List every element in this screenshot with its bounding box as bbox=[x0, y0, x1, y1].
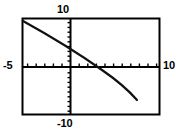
axis-label-bottom: -10 bbox=[57, 118, 72, 129]
axis-label-right: 10 bbox=[163, 60, 175, 71]
plot-area bbox=[0, 0, 179, 135]
axis-label-top: 10 bbox=[57, 4, 69, 15]
axis-label-left: -5 bbox=[3, 60, 12, 71]
graphing-calculator-screenshot: 10 -10 -5 10 bbox=[0, 0, 179, 135]
